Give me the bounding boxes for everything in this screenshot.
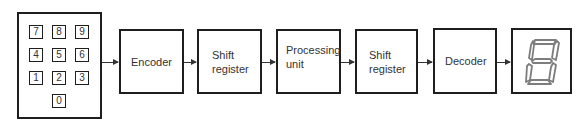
keypad-key-7: 7 — [29, 25, 43, 39]
arrow-decoder-to-display — [496, 62, 510, 63]
keypad-key-6: 6 — [75, 48, 89, 62]
seven-segment-digit-icon — [511, 28, 572, 94]
arrow-shift-register-2-to-decoder — [417, 62, 432, 63]
keypad-key-3: 3 — [75, 71, 89, 85]
processing-unit-label: Processing unit — [286, 43, 340, 71]
arrow-shift-register-1-to-processing-unit — [261, 62, 275, 63]
shift-register-2-label: Shift register — [369, 48, 406, 76]
keypad-key-5: 5 — [52, 48, 66, 62]
arrow-keypad-to-encoder — [102, 62, 118, 63]
encoder-label: Encoder — [131, 55, 172, 69]
keypad-key-9: 9 — [75, 25, 89, 39]
encoder-block: Encoder — [119, 29, 184, 94]
shift-register-1-block: Shift register — [197, 29, 262, 94]
shift-register-1-label: Shift register — [212, 48, 249, 76]
processing-unit-block: Processing unit — [276, 29, 341, 94]
keypad-key-0: 0 — [52, 94, 66, 108]
keypad-key-8: 8 — [52, 25, 66, 39]
keypad-key-2: 2 — [52, 71, 66, 85]
shift-register-2-block: Shift register — [355, 29, 418, 94]
decoder-label: Decoder — [445, 54, 487, 68]
arrow-processing-unit-to-shift-register-2 — [340, 62, 354, 63]
keypad-key-1: 1 — [29, 71, 43, 85]
decoder-block: Decoder — [433, 28, 497, 94]
arrow-encoder-to-shift-register-1 — [183, 62, 196, 63]
keypad-key-4: 4 — [29, 48, 43, 62]
